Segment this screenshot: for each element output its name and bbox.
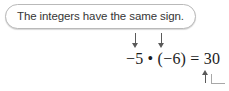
math-annotation-figure: The integers have the same sign. −5 • (−… — [0, 0, 229, 91]
arrow-up-icon-product — [201, 70, 210, 84]
leader-horizontal-segment — [211, 83, 225, 84]
arrow-head — [132, 43, 138, 48]
arrow-down-icon-left-factor — [131, 33, 140, 49]
callout-bubble: The integers have the same sign. — [5, 4, 196, 29]
arrow-down-icon-right-factor — [157, 33, 166, 49]
arrow-shaft — [205, 74, 206, 83]
leader-elbow-line — [211, 74, 226, 85]
arrow-head — [158, 43, 164, 48]
equation-expression: −5 • (−6) = 30 — [126, 51, 220, 67]
callout-text: The integers have the same sign. — [6, 11, 184, 23]
